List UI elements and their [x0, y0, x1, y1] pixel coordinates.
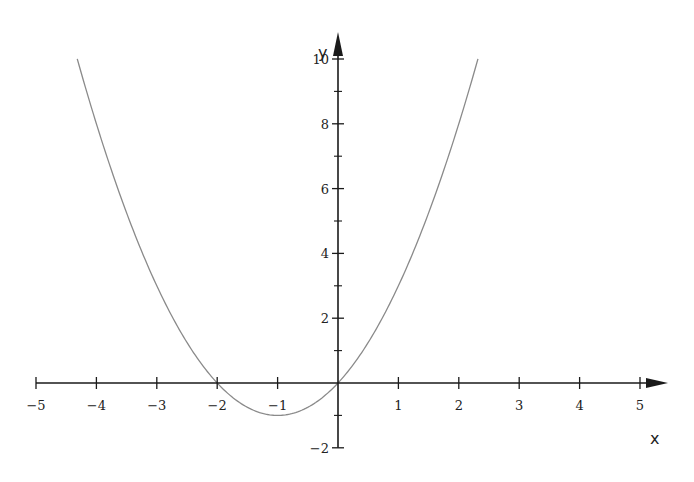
x-tick-label: −4: [87, 398, 106, 413]
y-tick-label: 4: [321, 246, 329, 261]
y-tick-label: 6: [321, 182, 329, 197]
y-axis-title: y: [318, 43, 327, 62]
x-axis-arrow-icon: [646, 378, 668, 388]
x-tick-label: −3: [147, 398, 166, 413]
x-tick-label: 3: [515, 398, 523, 413]
x-tick-label: −5: [26, 398, 45, 413]
axes: [36, 32, 668, 448]
x-tick-label: 4: [575, 398, 583, 413]
x-tick-label: 1: [394, 398, 402, 413]
y-tick-label: 2: [321, 311, 329, 326]
parabola-path: [77, 59, 478, 415]
function-plot: −5−4−3−2−112345−2246810 x y: [0, 0, 694, 482]
x-axis-title: x: [650, 429, 659, 448]
x-tick-label: −2: [208, 398, 227, 413]
y-tick-label: −2: [310, 441, 329, 456]
x-tick-label: −1: [268, 398, 287, 413]
y-axis-arrow-icon: [333, 32, 343, 56]
x-tick-label: 2: [455, 398, 463, 413]
parabola-curve: [77, 59, 478, 415]
y-tick-label: 8: [321, 117, 329, 132]
x-tick-label: 5: [636, 398, 644, 413]
